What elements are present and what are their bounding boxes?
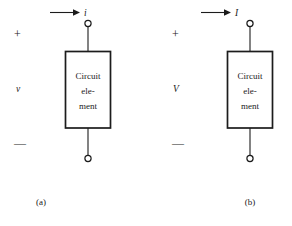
voltage-label-a: v: [16, 84, 21, 94]
bottom-terminal-node-a: [85, 155, 91, 161]
box-line-1-a: Circuit: [76, 71, 101, 81]
minus-sign-b: —: [171, 136, 185, 150]
current-label-b: I: [234, 8, 239, 18]
top-terminal-node-b: [247, 20, 253, 26]
panel-a: i Circuit ele- ment + — v: [13, 8, 111, 207]
box-line-2-a: ele-: [81, 86, 95, 96]
plus-sign-a: +: [14, 27, 21, 41]
caption-a: (a): [36, 197, 46, 207]
current-label-a: i: [84, 8, 87, 18]
bottom-terminal-node-b: [247, 155, 253, 161]
top-terminal-node-a: [85, 20, 91, 26]
plus-sign-b: +: [172, 27, 179, 41]
box-line-2-b: ele-: [243, 86, 257, 96]
current-arrow-a: [50, 9, 80, 15]
circuit-diagram-canvas: i Circuit ele- ment + — v: [0, 0, 292, 226]
caption-b: (b): [245, 197, 256, 207]
panel-b: I Circuit ele- ment + — V: [171, 8, 273, 207]
voltage-label-b: V: [173, 84, 180, 94]
current-arrow-b: [201, 9, 231, 15]
box-line-3-b: ment: [241, 101, 259, 111]
box-line-3-a: ment: [79, 101, 97, 111]
circuit-figure: i Circuit ele- ment + — v: [0, 0, 292, 226]
minus-sign-a: —: [13, 136, 27, 150]
box-line-1-b: Circuit: [238, 71, 263, 81]
